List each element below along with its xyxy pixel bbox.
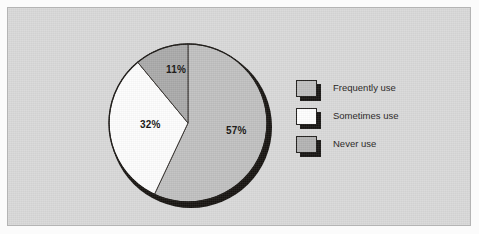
chart-legend: Frequently use Sometimes use Never use bbox=[296, 78, 446, 162]
pie-chart: 57%32%11% bbox=[102, 37, 282, 217]
pie-label-sometimes-use: 32% bbox=[140, 119, 161, 130]
legend-swatch-face bbox=[296, 108, 317, 125]
legend-item-never-use[interactable]: Never use bbox=[296, 134, 446, 162]
legend-item-frequently-use[interactable]: Frequently use bbox=[296, 78, 446, 106]
pie-label-frequently-use: 57% bbox=[226, 125, 247, 136]
legend-swatch-never-use bbox=[296, 136, 322, 157]
chart-screenshot: 57%32%11% Frequently use Sometimes use bbox=[0, 0, 479, 234]
legend-label-sometimes-use: Sometimes use bbox=[333, 110, 398, 121]
legend-swatch-sometimes-use bbox=[296, 108, 322, 129]
legend-item-sometimes-use[interactable]: Sometimes use bbox=[296, 106, 446, 134]
pie-label-never-use: 11% bbox=[166, 64, 186, 75]
chart-panel: 57%32%11% Frequently use Sometimes use bbox=[7, 7, 471, 226]
legend-label-frequently-use: Frequently use bbox=[333, 82, 396, 93]
legend-swatch-face bbox=[296, 136, 317, 153]
legend-swatch-face bbox=[296, 80, 317, 97]
legend-swatch-frequently-use bbox=[296, 80, 322, 101]
pie-svg bbox=[102, 37, 282, 217]
legend-label-never-use: Never use bbox=[333, 138, 376, 149]
pie-slice-group bbox=[109, 44, 267, 202]
